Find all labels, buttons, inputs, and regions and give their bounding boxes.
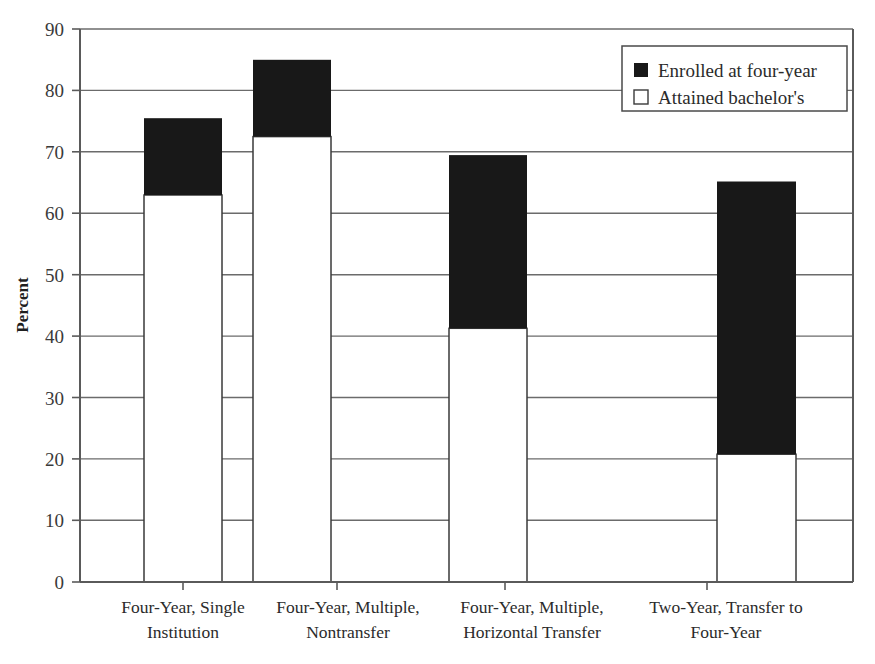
bar-segment-enrolled-four-year-3 [449,155,527,328]
x-category-label-4: Two-Year, Transfer to Four-Year [649,597,803,642]
bar-segment-attained-bachelors-3 [449,328,527,582]
x-category-label-1-line-2: Institution [147,622,219,642]
legend-marker-enrolled-at-four-year [634,63,648,77]
y-tick-label-50: 50 [45,265,64,286]
y-tick-label-80: 80 [45,80,64,101]
stacked-bar-chart: 90 80 70 60 50 40 30 20 10 0 Percent Fou… [0,0,875,664]
y-tick-label-0: 0 [55,572,65,593]
x-category-label-4-line-2: Four-Year [691,622,762,642]
bar-segment-enrolled-four-year-1 [144,118,222,195]
legend-marker-attained-bachelors [634,90,648,104]
bar-group-2 [253,60,331,582]
bar-segment-enrolled-four-year-2 [253,60,331,137]
x-tick-marks [183,582,707,590]
legend-label-enrolled-at-four-year: Enrolled at four-year [658,60,818,81]
bar-group-3 [449,155,527,582]
bar-segment-attained-bachelors-4 [717,454,796,582]
chart-svg: 90 80 70 60 50 40 30 20 10 0 Percent Fou… [0,0,875,664]
x-category-label-2: Four-Year, Multiple, Nontransfer [276,597,420,642]
y-axis-title: Percent [13,277,32,333]
y-tick-label-90: 90 [45,19,64,40]
bar-segment-attained-bachelors-1 [144,195,222,582]
legend-label-attained-bachelors: Attained bachelor's [658,87,804,108]
x-category-label-2-line-2: Nontransfer [306,622,390,642]
y-tick-label-20: 20 [45,449,64,470]
y-tick-label-10: 10 [45,510,64,531]
x-category-label-2-line-1: Four-Year, Multiple, [276,597,420,617]
bar-group-4 [717,182,796,583]
x-category-label-3: Four-Year, Multiple, Horizontal Transfer [460,597,604,642]
y-tick-marks [72,29,80,582]
x-category-label-4-line-1: Two-Year, Transfer to [649,597,803,617]
x-category-label-3-line-1: Four-Year, Multiple, [460,597,604,617]
bar-segment-enrolled-four-year-4 [717,182,796,455]
legend: Enrolled at four-year Attained bachelor'… [622,46,847,111]
x-category-label-1-line-1: Four-Year, Single [121,597,245,617]
x-category-label-3-line-2: Horizontal Transfer [463,622,601,642]
y-tick-label-70: 70 [45,142,64,163]
y-tick-label-40: 40 [45,326,64,347]
y-tick-label-30: 30 [45,388,64,409]
x-category-label-1: Four-Year, Single Institution [121,597,245,642]
y-tick-label-60: 60 [45,203,64,224]
bar-segment-attained-bachelors-2 [253,137,331,582]
bar-group-1 [144,118,222,582]
